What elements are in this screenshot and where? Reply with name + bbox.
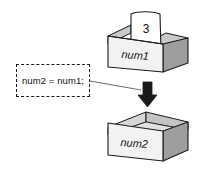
source-box-side-face — [163, 38, 188, 72]
code-annotation-text: num2 = num1; — [22, 75, 84, 86]
assignment-diagram: 3 num1 — [0, 0, 199, 176]
arrow-down-icon — [138, 82, 157, 107]
source-box-label: num1 — [121, 48, 149, 62]
target-box-group: num2 — [108, 112, 188, 161]
target-box-label: num2 — [120, 136, 148, 150]
source-box-group: 3 num1 — [108, 12, 188, 72]
code-annotation-box: num2 = num1; — [16, 64, 90, 97]
paper-value-text: 3 — [143, 22, 150, 36]
leader-line — [90, 81, 141, 90]
